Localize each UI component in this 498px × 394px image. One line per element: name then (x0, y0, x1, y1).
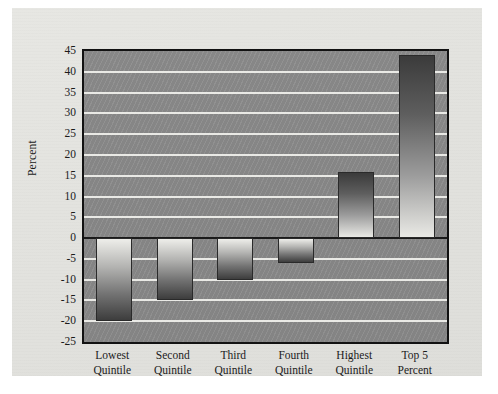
x-tick-label: LowestQuintile (82, 348, 143, 378)
gridline (84, 133, 447, 135)
bar (399, 55, 435, 238)
bar (157, 238, 193, 300)
y-tick-label: -10 (61, 274, 76, 286)
bar (338, 172, 374, 239)
y-tick-label: 35 (65, 87, 77, 99)
chart-page: 454035302520151050-5-10-15-20-25 Percent… (0, 0, 498, 394)
y-tick-label: 5 (70, 212, 76, 224)
gridline (84, 258, 447, 260)
y-axis-title: Percent (26, 140, 38, 176)
y-tick-label: 45 (65, 45, 77, 57)
x-tick-label-line: Third (203, 348, 264, 363)
bar (278, 238, 314, 263)
x-tick-label-line: Lowest (82, 348, 143, 363)
y-axis-tick-labels: 454035302520151050-5-10-15-20-25 (42, 49, 76, 344)
x-tick-label-line: Highest (324, 348, 385, 363)
x-tick-label-line: Quintile (143, 363, 204, 378)
gridline (84, 154, 447, 156)
x-tick-label-line: Quintile (324, 363, 385, 378)
x-tick-label: Top 5Percent (385, 348, 446, 378)
plot-area (82, 49, 449, 344)
x-tick-label-line: Quintile (82, 363, 143, 378)
zero-line (84, 237, 447, 239)
y-tick-label: 0 (70, 232, 76, 244)
y-tick-label: 25 (65, 128, 77, 140)
y-tick-label: -20 (61, 315, 76, 327)
bar (217, 238, 253, 280)
y-tick-label: -15 (61, 295, 76, 307)
scanned-paper-panel: 454035302520151050-5-10-15-20-25 Percent… (12, 8, 482, 376)
gridline (84, 216, 447, 218)
gridline (84, 175, 447, 177)
gridline (84, 112, 447, 114)
x-axis-tick-labels: LowestQuintileSecondQuintileThirdQuintil… (82, 348, 449, 382)
x-tick-label-line: Second (143, 348, 204, 363)
x-tick-label: SecondQuintile (143, 348, 204, 378)
x-tick-label-line: Quintile (203, 363, 264, 378)
x-tick-label: ThirdQuintile (203, 348, 264, 378)
gridline (84, 320, 447, 322)
x-tick-label-line: Quintile (264, 363, 325, 378)
y-tick-label: -25 (61, 336, 76, 348)
gridline (84, 279, 447, 281)
x-tick-label: FourthQuintile (264, 348, 325, 378)
y-tick-label: 10 (65, 191, 77, 203)
x-tick-label-line: Percent (385, 363, 446, 378)
bar (96, 238, 132, 321)
y-tick-label: 40 (65, 66, 77, 78)
x-tick-label-line: Fourth (264, 348, 325, 363)
x-tick-label: HighestQuintile (324, 348, 385, 378)
y-tick-label: 30 (65, 108, 77, 120)
gridline (84, 92, 447, 94)
y-tick-label: 15 (65, 170, 77, 182)
x-tick-label-line: Top 5 (385, 348, 446, 363)
y-tick-label: -5 (66, 253, 76, 265)
gridline (84, 196, 447, 198)
gridline (84, 299, 447, 301)
gridline (84, 71, 447, 73)
y-tick-label: 20 (65, 149, 77, 161)
